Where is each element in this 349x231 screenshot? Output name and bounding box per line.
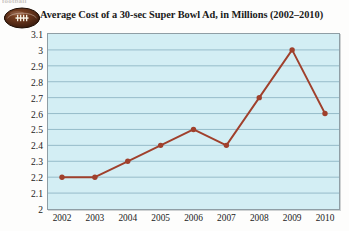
y-axis-tick-label: 2.6 [31, 108, 43, 119]
x-axis-tick-label: 2002 [53, 213, 72, 223]
y-axis-tick-label: 2.2 [31, 172, 43, 183]
data-point-marker [289, 47, 294, 52]
x-axis-tick-label: 2006 [184, 213, 203, 223]
y-axis-tick-label: 2.3 [31, 156, 43, 167]
plot-area [47, 33, 340, 210]
y-axis-tick-label: 2.7 [31, 92, 43, 103]
y-axis-tick-label: 3 [38, 44, 43, 55]
y-axis-tick-label: 3.1 [31, 29, 43, 40]
data-point-marker [191, 127, 196, 132]
data-point-marker [92, 174, 97, 179]
x-axis-tick-label: 2004 [118, 213, 137, 223]
y-axis-tick-label: 2.1 [31, 188, 43, 199]
x-axis-labels: 200220032004200520062007200820092010 [47, 213, 340, 229]
data-point-marker [59, 174, 64, 179]
data-point-marker [224, 143, 229, 148]
x-axis-tick-label: 2007 [217, 213, 236, 223]
y-axis-tick-label: 2.4 [31, 140, 43, 151]
data-point-marker [257, 95, 262, 100]
chart-title: Average Cost of a 30-sec Super Bowl Ad, … [40, 9, 348, 20]
y-axis-tick-label: 2 [38, 204, 43, 215]
x-axis-tick-label: 2008 [250, 213, 269, 223]
y-axis-tick-label: 2.8 [31, 76, 43, 87]
data-point-marker [322, 111, 327, 116]
y-axis-tick-label: 2.5 [31, 124, 43, 135]
x-axis-tick-label: 2003 [86, 213, 105, 223]
data-point-marker [125, 159, 130, 164]
football-icon [1, 6, 43, 30]
x-axis-tick-label: 2005 [151, 213, 170, 223]
chart-figure: football [0, 0, 349, 231]
clipped-header-text: football [2, 0, 27, 3]
y-axis-tick-label: 2.9 [31, 60, 43, 71]
x-axis-tick-label: 2009 [283, 213, 302, 223]
data-point-marker [158, 143, 163, 148]
x-axis-tick-label: 2010 [316, 213, 335, 223]
chart-body: 3.132.92.82.72.62.52.42.32.22.12 2002200… [0, 28, 349, 231]
y-axis-labels: 3.132.92.82.72.62.52.42.32.22.12 [0, 28, 46, 210]
